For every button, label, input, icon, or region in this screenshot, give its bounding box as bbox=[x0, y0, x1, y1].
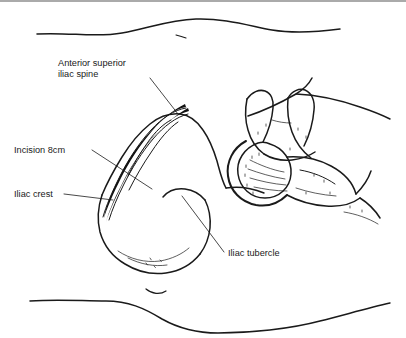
mid-body-contour bbox=[248, 78, 390, 119]
label-asis-line2: iliac spine bbox=[58, 69, 98, 79]
upper-body-contour bbox=[37, 19, 340, 38]
femoral-neck-and-trochanter bbox=[287, 157, 371, 206]
leader-iliac-tubercle bbox=[182, 196, 224, 252]
leader-lines bbox=[64, 78, 224, 252]
skin-folds bbox=[103, 108, 188, 220]
leader-iliac-crest bbox=[64, 194, 113, 200]
figure-canvas: Anterior superior iliac spine Incision 8… bbox=[0, 2, 406, 338]
lower-body-contour bbox=[30, 289, 390, 333]
anatomical-figure: Anterior superior iliac spine Incision 8… bbox=[0, 0, 406, 338]
label-asis-line1: Anterior superior bbox=[58, 58, 126, 68]
label-incision: Incision 8cm bbox=[14, 145, 65, 155]
leader-asis bbox=[150, 78, 178, 114]
label-iliac-tubercle: Iliac tubercle bbox=[228, 248, 280, 258]
label-iliac-crest: Iliac crest bbox=[14, 189, 53, 199]
incision-marking bbox=[104, 104, 189, 222]
